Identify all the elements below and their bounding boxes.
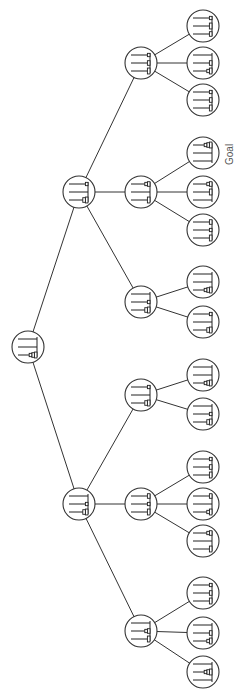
state-node	[125, 615, 157, 647]
disk-icon	[207, 69, 210, 72]
search-tree-diagram	[0, 0, 239, 699]
tree-edges	[28, 26, 203, 672]
disk-icon	[147, 61, 150, 66]
tree-edge	[79, 395, 141, 504]
state-node	[63, 488, 95, 520]
tree-edge	[79, 192, 141, 302]
disk-icon	[209, 494, 212, 499]
state-node	[125, 379, 157, 411]
state-node	[125, 47, 157, 79]
state-node	[187, 359, 219, 391]
disk-icon	[209, 235, 212, 241]
disk-icon	[209, 16, 212, 19]
disk-icon	[209, 546, 212, 552]
disk-icon	[204, 381, 207, 384]
state-node	[187, 47, 219, 79]
state-node	[125, 488, 157, 520]
disk-icon	[147, 68, 150, 74]
disk-icon	[147, 53, 150, 56]
state-node	[187, 10, 219, 42]
disk-icon	[207, 182, 210, 185]
disk-icon	[207, 639, 210, 642]
tree-nodes	[12, 10, 219, 688]
disk-icon	[209, 472, 212, 478]
tree-edge	[79, 63, 141, 192]
disk-icon	[29, 353, 32, 356]
goal-state-node	[187, 137, 219, 169]
disk-icon	[207, 328, 210, 333]
disk-icon	[207, 420, 210, 425]
state-node	[12, 331, 44, 363]
tree-edge	[28, 192, 79, 347]
disk-icon	[85, 502, 88, 505]
disk-icon	[145, 182, 148, 185]
disk-icon	[209, 105, 212, 111]
tree-edge	[79, 504, 141, 631]
disk-icon	[147, 509, 150, 515]
state-node	[63, 176, 95, 208]
goal-label: Goal	[224, 144, 235, 165]
state-node	[187, 266, 219, 298]
disk-icon	[147, 494, 150, 499]
disk-icon	[145, 308, 148, 313]
disk-icon	[83, 198, 86, 203]
disk-icon	[147, 300, 150, 303]
disk-icon	[209, 591, 212, 596]
disk-icon	[209, 228, 212, 231]
state-node	[187, 214, 219, 246]
disk-icon	[209, 631, 212, 636]
state-node	[187, 176, 219, 208]
disk-icon	[209, 98, 212, 103]
state-node	[187, 656, 219, 688]
disk-icon	[145, 629, 148, 632]
disk-icon	[209, 32, 212, 37]
disk-icon	[209, 465, 212, 470]
disk-icon	[207, 510, 210, 513]
state-node	[187, 398, 219, 430]
disk-icon	[147, 502, 150, 505]
state-node	[187, 488, 219, 520]
disk-icon	[147, 197, 150, 203]
disk-icon	[147, 385, 150, 388]
state-node	[187, 577, 219, 609]
disk-icon	[209, 312, 212, 315]
disk-icon	[85, 182, 88, 185]
disk-icon	[209, 412, 212, 415]
state-node	[125, 286, 157, 318]
disk-icon	[209, 90, 212, 93]
state-node	[187, 306, 219, 338]
tree-edge	[28, 347, 79, 504]
disk-icon	[209, 23, 212, 29]
state-node	[187, 525, 219, 557]
disk-icon	[83, 510, 86, 515]
state-node	[187, 451, 219, 483]
disk-icon	[209, 598, 212, 604]
disk-icon	[209, 61, 212, 66]
state-node	[187, 84, 219, 116]
state-node	[187, 617, 219, 649]
disk-icon	[207, 531, 210, 534]
disk-icon	[204, 143, 207, 146]
disk-icon	[209, 583, 212, 586]
disk-icon	[209, 220, 212, 225]
disk-icon	[204, 288, 207, 291]
state-node	[125, 176, 157, 208]
disk-icon	[204, 670, 207, 673]
disk-icon	[145, 401, 148, 406]
disk-icon	[209, 457, 212, 460]
disk-icon	[147, 636, 150, 642]
disk-icon	[209, 189, 212, 195]
